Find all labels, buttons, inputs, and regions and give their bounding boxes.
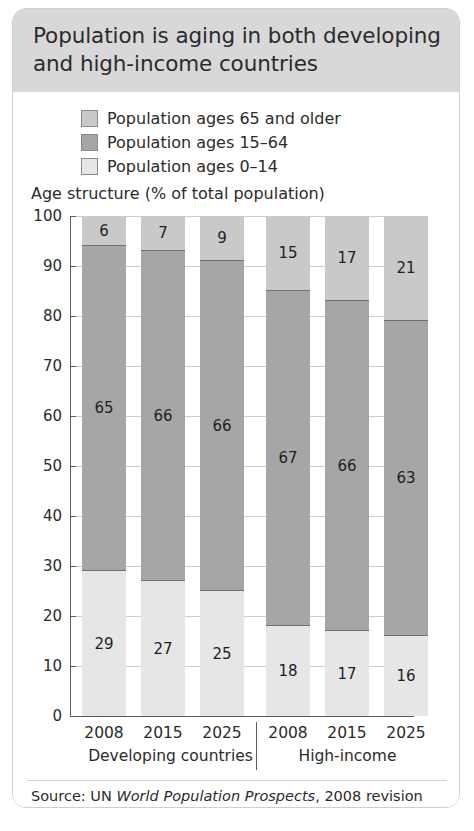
bar-segment: 25 [200, 591, 244, 716]
tick-label-40: 40 [13, 507, 62, 525]
x-axis-label: 2025 [192, 724, 252, 742]
bar-segment: 67 [266, 291, 310, 626]
x-axis-label: 2015 [133, 724, 193, 742]
bar-value-label: 66 [153, 407, 172, 425]
bar-segment: 65 [82, 246, 126, 571]
tick-label-80: 80 [13, 307, 62, 325]
chart-header: Population is aging in both developing a… [13, 9, 459, 92]
plot-area: 0102030405060708090100 29656276672566918… [13, 92, 459, 807]
group-label-developing: Developing countries [83, 747, 258, 765]
table-row[interactable]: 25669 [200, 216, 244, 716]
tick-label-20: 20 [13, 607, 62, 625]
x-axis-label: 2008 [258, 724, 318, 742]
tick-mark-20 [70, 616, 76, 617]
bar-segment: 17 [325, 216, 369, 301]
bar-value-label: 9 [217, 229, 227, 247]
bar-value-label: 27 [153, 640, 172, 658]
bar-value-label: 25 [212, 645, 231, 663]
bar-value-label: 29 [94, 635, 113, 653]
bar-segment: 63 [384, 321, 428, 636]
bar-value-label: 65 [94, 399, 113, 417]
bar-segment: 9 [200, 216, 244, 261]
tick-mark-90 [70, 266, 76, 267]
bar-segment: 18 [266, 626, 310, 716]
tick-label-0: 0 [13, 707, 62, 725]
group-label-high-income: High-income [265, 747, 430, 765]
tick-label-60: 60 [13, 407, 62, 425]
x-axis-label: 2025 [376, 724, 436, 742]
bar-segment: 15 [266, 216, 310, 291]
bar-value-label: 21 [396, 259, 415, 277]
tick-mark-70 [70, 366, 76, 367]
tick-mark-50 [70, 466, 76, 467]
bar-value-label: 63 [396, 469, 415, 487]
bar-segment: 29 [82, 571, 126, 716]
tick-mark-100 [70, 216, 76, 217]
tick-mark-80 [70, 316, 76, 317]
bar-segment: 17 [325, 631, 369, 716]
bar-segment: 16 [384, 636, 428, 716]
bar-value-label: 6 [99, 222, 109, 240]
tick-mark-10 [70, 666, 76, 667]
tick-label-10: 10 [13, 657, 62, 675]
table-row[interactable]: 29656 [82, 216, 126, 716]
bar-value-label: 66 [212, 417, 231, 435]
table-row[interactable]: 27667 [141, 216, 185, 716]
source-prefix: Source: UN [31, 788, 116, 804]
table-row[interactable]: 166321 [384, 216, 428, 716]
bar-value-label: 66 [337, 457, 356, 475]
tick-mark-60 [70, 416, 76, 417]
bar-value-label: 7 [158, 224, 168, 242]
tick-label-50: 50 [13, 457, 62, 475]
table-row[interactable]: 186715 [266, 216, 310, 716]
tick-label-100: 100 [13, 207, 62, 225]
bar-segment: 66 [325, 301, 369, 631]
tick-label-90: 90 [13, 257, 62, 275]
source-title: World Population Prospects [116, 788, 315, 804]
chart-body: Population ages 65 and older Population … [13, 92, 459, 807]
x-axis-label: 2008 [74, 724, 134, 742]
bar-segment: 7 [141, 216, 185, 251]
table-row[interactable]: 176617 [325, 216, 369, 716]
bar-value-label: 16 [396, 667, 415, 685]
bar-value-label: 15 [278, 244, 297, 262]
bar-segment: 27 [141, 581, 185, 716]
x-axis-line [70, 716, 414, 717]
source-suffix: , 2008 revision [315, 788, 423, 804]
bar-segment: 6 [82, 216, 126, 246]
source-divider [27, 780, 447, 781]
tick-mark-30 [70, 566, 76, 567]
page-title: Population is aging in both developing a… [33, 22, 443, 78]
bar-segment: 66 [200, 261, 244, 591]
bar-value-label: 17 [337, 665, 356, 683]
bar-value-label: 18 [278, 662, 297, 680]
bar-value-label: 17 [337, 249, 356, 267]
tick-mark-40 [70, 516, 76, 517]
tick-mark-0 [70, 716, 76, 717]
source-note: Source: UN World Population Prospects, 2… [31, 788, 423, 804]
x-axis-label: 2015 [317, 724, 377, 742]
bar-segment: 66 [141, 251, 185, 581]
chart-card: Population is aging in both developing a… [12, 8, 460, 808]
tick-label-70: 70 [13, 357, 62, 375]
bar-value-label: 67 [278, 449, 297, 467]
tick-label-30: 30 [13, 557, 62, 575]
bar-segment: 21 [384, 216, 428, 321]
